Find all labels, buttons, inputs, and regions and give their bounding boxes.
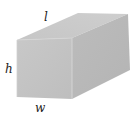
length-label: l <box>44 11 48 23</box>
front-face <box>17 38 72 99</box>
rectangular-prism-diagram: l h w <box>0 0 138 118</box>
width-label: w <box>35 102 45 114</box>
height-label: h <box>5 63 13 75</box>
prism-drawing <box>0 0 138 118</box>
